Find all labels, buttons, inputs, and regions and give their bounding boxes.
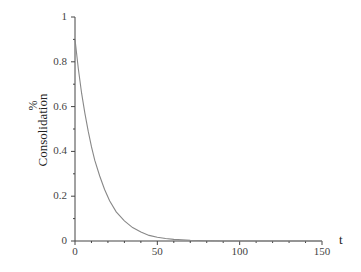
consolidation-curve <box>75 39 322 241</box>
chart-canvas <box>0 0 361 272</box>
x-axis-label: t <box>339 232 343 248</box>
x-tick-label: 100 <box>225 245 255 257</box>
x-tick-label: 0 <box>60 245 90 257</box>
y-axis-label: Consolidation <box>35 75 51 185</box>
x-tick-label: 50 <box>142 245 172 257</box>
y-tick-label: 0.2 <box>37 189 67 201</box>
y-tick-label: 0.8 <box>37 55 67 67</box>
axes <box>71 17 322 245</box>
y-tick-label: 1 <box>37 10 67 22</box>
x-tick-label: 150 <box>307 245 337 257</box>
